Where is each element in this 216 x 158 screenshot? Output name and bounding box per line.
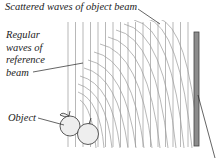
reference-label-line2: waves of <box>6 42 42 55</box>
reference-label-line3: reference <box>6 54 45 67</box>
reference-label-line1: Regular <box>6 29 40 42</box>
hologram-diagram <box>0 0 216 158</box>
object-label: Object <box>8 112 36 125</box>
object-apples <box>60 111 99 145</box>
reference-label-line4: beam <box>6 67 29 80</box>
scattered-waves-label: Scattered waves of object beam <box>5 1 137 14</box>
holographic-plate <box>194 32 199 146</box>
